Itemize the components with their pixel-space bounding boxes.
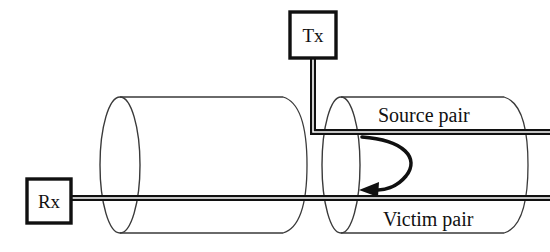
left-cable-bundle: [100, 97, 307, 233]
tx-terminal[interactable]: Tx: [290, 12, 336, 58]
crosstalk-arrow-head: [359, 182, 379, 197]
crosstalk-diagram: Tx Rx Source pair Victim pair: [0, 0, 550, 252]
crosstalk-arrow-curve: [362, 137, 411, 190]
left-cylinder-top-edge: [120, 97, 307, 165]
tx-label: Tx: [302, 25, 324, 46]
right-cylinder-near-ellipse: [322, 97, 360, 233]
crosstalk-arrow: [359, 137, 411, 197]
rx-terminal[interactable]: Rx: [27, 179, 71, 223]
rx-label: Rx: [38, 191, 61, 212]
left-cylinder-near-ellipse: [100, 97, 140, 233]
source-pair-label: Source pair: [378, 104, 470, 127]
victim-pair-label: Victim pair: [383, 208, 474, 231]
diagram-canvas: Tx Rx Source pair Victim pair: [0, 0, 550, 252]
